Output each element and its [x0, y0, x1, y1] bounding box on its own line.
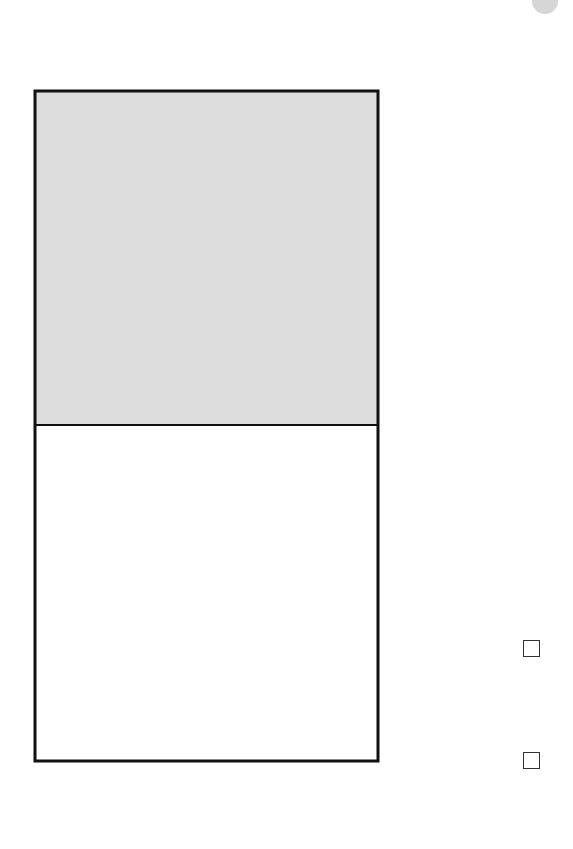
- legend-uncovered-swatch: [523, 640, 540, 657]
- chart-grid: [0, 0, 573, 849]
- legend-covered-swatch: [523, 752, 540, 769]
